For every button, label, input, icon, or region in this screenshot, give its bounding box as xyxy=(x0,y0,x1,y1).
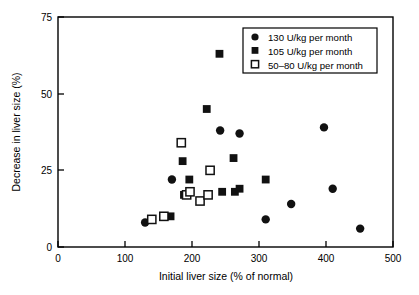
data-point-filled-square xyxy=(230,154,238,162)
y-axis-title: Decrease in liver size (%) xyxy=(10,72,22,191)
data-point-filled-circle xyxy=(287,200,295,208)
data-point-filled-square xyxy=(203,105,211,113)
data-point-open-square xyxy=(177,139,185,147)
x-tick-label-400: 400 xyxy=(318,253,335,264)
x-tick-label-0: 0 xyxy=(55,253,61,264)
x-axis-title: Initial liver size (% of normal) xyxy=(159,270,293,282)
data-point-filled-circle xyxy=(329,185,337,193)
data-point-filled-square xyxy=(185,176,193,184)
data-point-filled-circle xyxy=(262,215,270,223)
data-point-filled-square xyxy=(236,185,244,193)
data-point-filled-square xyxy=(262,176,270,184)
y-tick-label-75: 75 xyxy=(41,12,53,23)
x-tick-label-200: 200 xyxy=(184,253,201,264)
y-tick-label-50: 50 xyxy=(41,89,53,100)
data-point-open-square xyxy=(160,212,168,220)
chart-canvas: 0 25 50 75 0 100 200 300 400 500 Initial… xyxy=(0,0,419,295)
data-point-filled-circle xyxy=(216,126,224,134)
data-point-filled-circle xyxy=(320,123,328,131)
data-point-open-square xyxy=(186,188,194,196)
x-tick-label-500: 500 xyxy=(385,253,402,264)
legend-label-1: 105 U/kg per month xyxy=(268,46,352,57)
data-point-filled-square xyxy=(218,188,226,196)
chart-legend: 130 U/kg per month 105 U/kg per month 50… xyxy=(243,28,377,73)
data-point-open-square xyxy=(196,197,204,205)
x-tick-label-100: 100 xyxy=(117,253,134,264)
y-tick-label-0: 0 xyxy=(46,242,52,253)
data-point-filled-circle xyxy=(235,129,243,137)
x-tick-label-300: 300 xyxy=(251,253,268,264)
scatter-chart-figure: 0 25 50 75 0 100 200 300 400 500 Initial… xyxy=(0,0,419,295)
legend-filled-circle-icon xyxy=(251,33,258,40)
legend-open-square-icon xyxy=(251,61,258,68)
data-point-filled-square xyxy=(216,50,224,58)
legend-label-2: 50–80 U/kg per month xyxy=(268,60,363,71)
legend-filled-square-icon xyxy=(252,47,259,54)
data-point-filled-circle xyxy=(356,224,364,232)
legend-label-0: 130 U/kg per month xyxy=(268,32,352,43)
y-tick-label-25: 25 xyxy=(41,165,53,176)
data-point-filled-circle xyxy=(168,175,176,183)
data-point-filled-square xyxy=(179,157,187,165)
data-point-open-square xyxy=(206,166,214,174)
data-point-open-square xyxy=(148,215,156,223)
data-point-open-square xyxy=(204,191,212,199)
